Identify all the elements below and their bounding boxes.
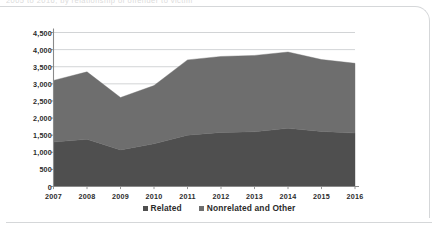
x-axis-tick-label: 2010 bbox=[146, 192, 163, 201]
chart-legend: RelatedNonrelated and Other bbox=[0, 203, 438, 213]
x-axis-tick-label: 2008 bbox=[79, 192, 96, 201]
legend-item-label: Nonrelated and Other bbox=[207, 203, 296, 213]
x-axis-tick-label: 2012 bbox=[213, 192, 230, 201]
figure-page: 2005 to 2016, by relationship of offende… bbox=[0, 0, 438, 235]
x-axis-tick-label: 2007 bbox=[45, 192, 62, 201]
x-axis-tick-label: 2016 bbox=[347, 192, 364, 201]
legend-item[interactable]: Related bbox=[143, 203, 182, 213]
x-axis-tick-label: 2013 bbox=[246, 192, 263, 201]
legend-item-label: Related bbox=[151, 203, 182, 213]
legend-swatch-icon bbox=[199, 206, 204, 211]
x-axis-tick-label: 2015 bbox=[313, 192, 330, 201]
stacked-area-chart: 05001,0001,5002,0002,5003,0003,5004,0004… bbox=[0, 0, 438, 235]
legend-swatch-icon bbox=[143, 206, 148, 211]
x-axis-tick-label: 2014 bbox=[280, 192, 297, 201]
x-axis-tick-labels: 2007200820092010201120122013201420152016 bbox=[0, 0, 438, 235]
legend-item[interactable]: Nonrelated and Other bbox=[199, 203, 296, 213]
x-axis-tick-label: 2011 bbox=[179, 192, 195, 201]
x-axis-tick-label: 2009 bbox=[112, 192, 129, 201]
